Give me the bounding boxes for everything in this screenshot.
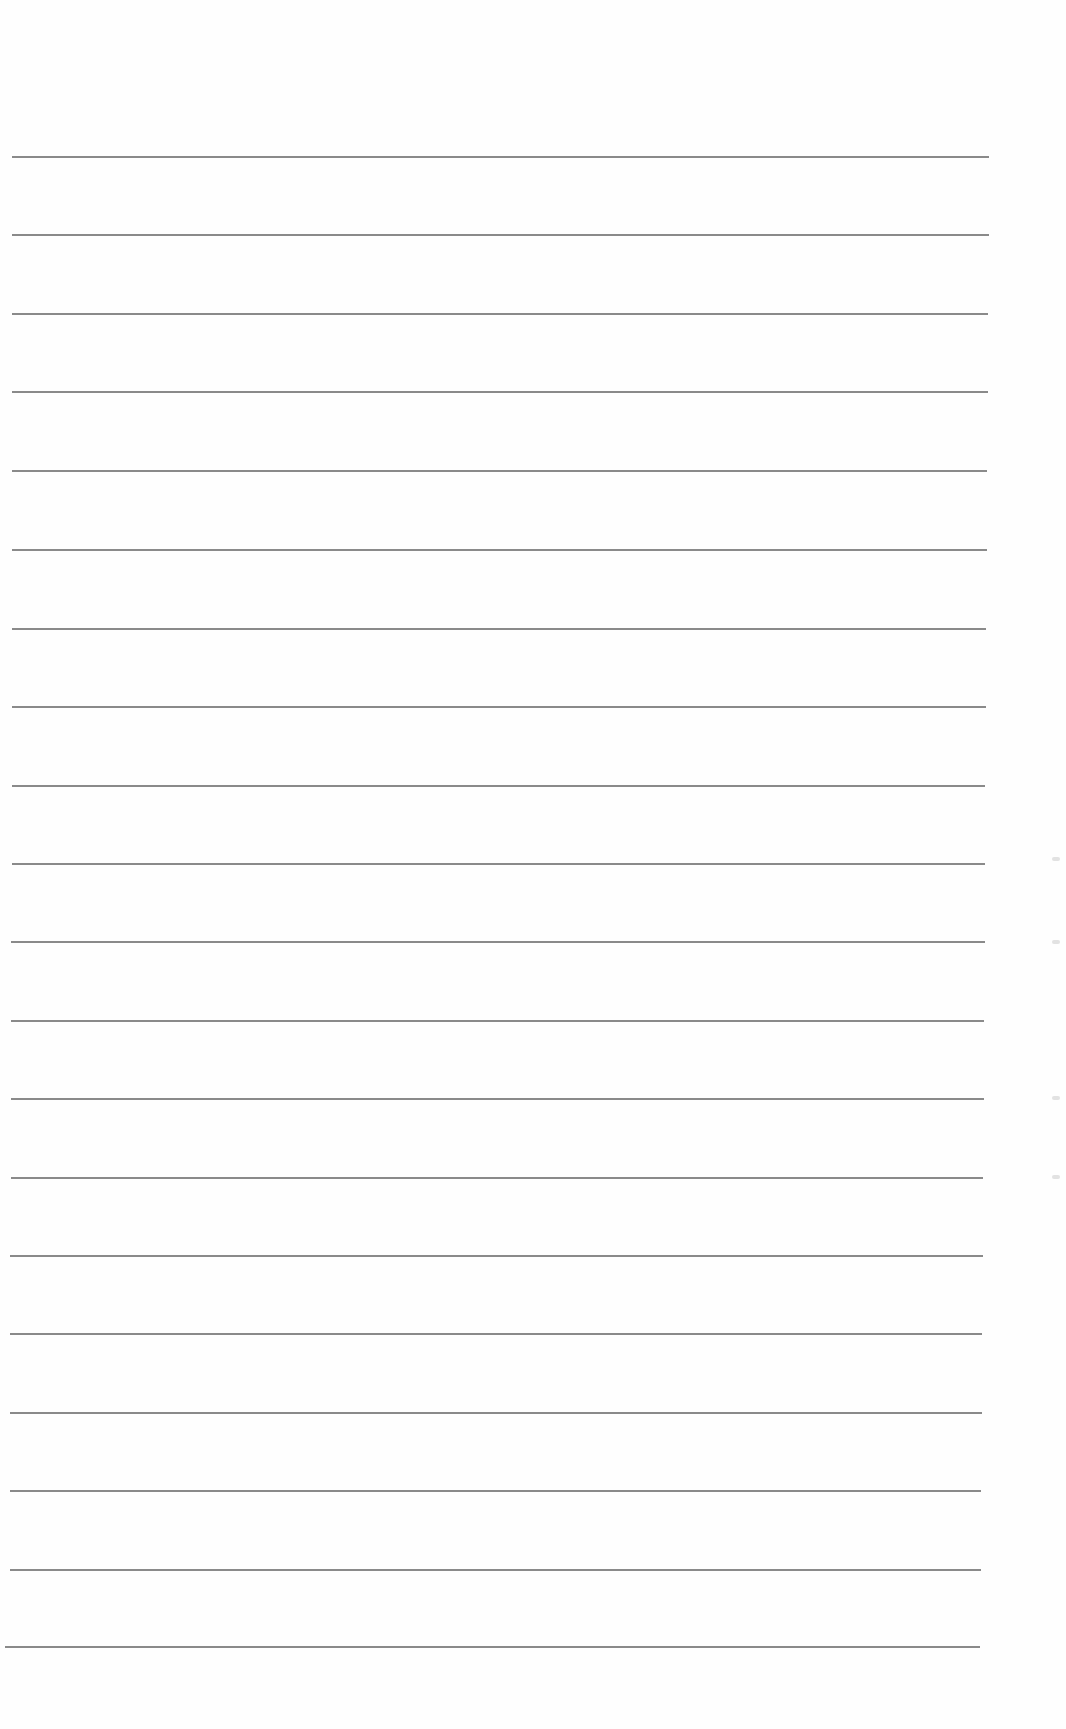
ruled-line xyxy=(12,785,985,787)
ruled-line xyxy=(12,628,986,630)
ruled-line xyxy=(12,706,986,708)
scan-artifact-mark xyxy=(1052,1096,1060,1100)
ruled-line xyxy=(11,1177,983,1179)
ruled-line xyxy=(10,1333,982,1335)
scan-artifact-mark xyxy=(1052,940,1060,944)
ruled-line xyxy=(12,863,985,865)
ruled-line xyxy=(10,1412,982,1414)
ruled-line xyxy=(5,1646,980,1648)
ruled-line xyxy=(10,1255,983,1257)
ruled-line xyxy=(12,234,989,236)
ruled-line xyxy=(11,1020,984,1022)
ruled-line xyxy=(11,1098,984,1100)
lined-paper-page xyxy=(0,0,1066,1729)
ruled-line xyxy=(10,1490,981,1492)
ruled-line xyxy=(10,1569,981,1571)
ruled-line xyxy=(12,156,989,158)
scan-artifact-mark xyxy=(1052,857,1060,861)
ruled-line xyxy=(11,941,985,943)
ruled-line xyxy=(12,391,988,393)
scan-artifact-mark xyxy=(1052,1175,1060,1179)
ruled-line xyxy=(12,470,987,472)
ruled-line xyxy=(12,549,987,551)
ruled-line xyxy=(12,313,988,315)
